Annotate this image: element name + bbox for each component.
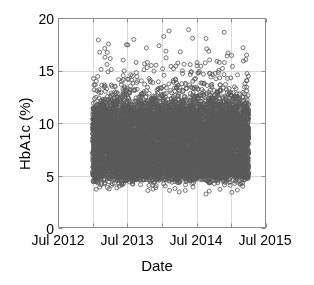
x-axis-label: Date xyxy=(0,257,314,274)
x-tick-label-jul-2014: Jul 2014 xyxy=(161,232,231,248)
y-axis-label: HbA1c (%) xyxy=(16,97,33,170)
y-tick-label-5: 5 xyxy=(28,169,54,185)
x-tick-label-jul-2012: Jul 2012 xyxy=(23,232,93,248)
x-tick-label-jul-2013: Jul 2013 xyxy=(92,232,162,248)
x-tick-label-jul-2015: Jul 2015 xyxy=(230,232,300,248)
y-tick-label-15: 15 xyxy=(28,63,54,79)
hba1c-scatter-figure: 20 15 10 5 0 Jul 2012 Jul 2013 Jul 2014 … xyxy=(0,0,314,285)
y-tick-label-20: 20 xyxy=(28,11,54,27)
